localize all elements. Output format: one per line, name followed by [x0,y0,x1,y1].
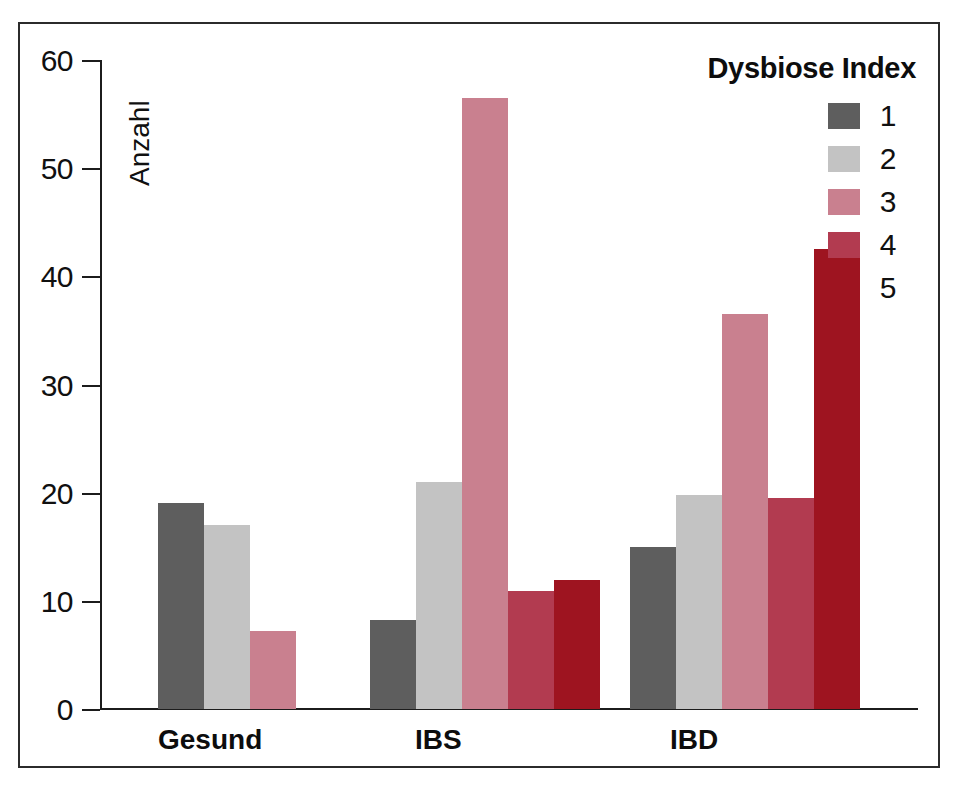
y-tick-label: 10 [41,585,73,619]
figure-frame: Anzahl 6050403020100 GesundIBSIBD Dysbio… [18,22,940,768]
y-tick-label: 30 [41,369,73,403]
legend-item-label: 5 [860,271,916,305]
bar-ibs-index-2[interactable] [416,482,462,709]
legend-swatch-icon [828,146,860,172]
legend-swatch-icon [828,232,860,258]
x-label-gesund: Gesund [158,724,262,756]
legend-item-label: 3 [860,185,916,219]
bar-ibd-index-1[interactable] [630,547,676,709]
bar-gesund-index-1[interactable] [158,503,204,709]
x-label-ibd: IBD [670,724,718,756]
legend-item-1[interactable]: 1 [616,99,916,133]
y-tick-10: 10 [82,601,100,603]
y-tick-30: 30 [82,385,100,387]
x-label-ibs: IBS [415,724,462,756]
bar-ibd-index-3[interactable] [722,314,768,709]
y-tick-20: 20 [82,493,100,495]
legend-swatch-icon [828,103,860,129]
legend-rows: 12345 [616,99,916,305]
bar-gesund-index-2[interactable] [204,525,250,709]
chart-legend: Dysbiose Index 12345 [616,52,916,314]
legend-item-2[interactable]: 2 [616,142,916,176]
legend-item-3[interactable]: 3 [616,185,916,219]
y-tick-label: 60 [41,44,73,78]
bar-ibd-index-5[interactable] [814,249,860,709]
y-tick-50: 50 [82,168,100,170]
legend-item-label: 4 [860,228,916,262]
y-tick-label: 50 [41,152,73,186]
y-tick-60: 60 [82,60,100,62]
bar-ibs-index-3[interactable] [462,98,508,709]
y-tick-40: 40 [82,276,100,278]
y-tick-label: 0 [57,693,73,727]
bar-gesund-index-3[interactable] [250,631,296,709]
bar-ibs-index-1[interactable] [370,620,416,709]
legend-title: Dysbiose Index [616,52,916,85]
legend-swatch-icon [828,189,860,215]
legend-swatch-icon [828,275,860,301]
legend-item-label: 2 [860,142,916,176]
y-tick-label: 20 [41,477,73,511]
legend-item-label: 1 [860,99,916,133]
legend-item-5[interactable]: 5 [616,271,916,305]
bar-ibd-index-2[interactable] [676,495,722,709]
y-tick-0: 0 [82,709,100,711]
legend-item-4[interactable]: 4 [616,228,916,262]
bar-ibs-index-5[interactable] [554,580,600,709]
y-tick-label: 40 [41,260,73,294]
bar-ibs-index-4[interactable] [508,591,554,709]
bar-ibd-index-4[interactable] [768,498,814,709]
